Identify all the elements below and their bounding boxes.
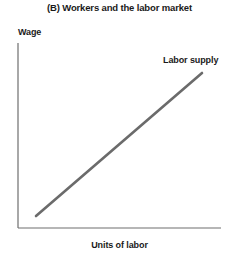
labor-supply-curve [36, 73, 202, 216]
chart-figure: (B) Workers and the labor market Wage La… [0, 0, 239, 256]
plot-area [0, 0, 239, 256]
x-axis-label: Units of labor [0, 240, 239, 250]
labor-supply-curve-label: Labor supply [163, 55, 218, 65]
